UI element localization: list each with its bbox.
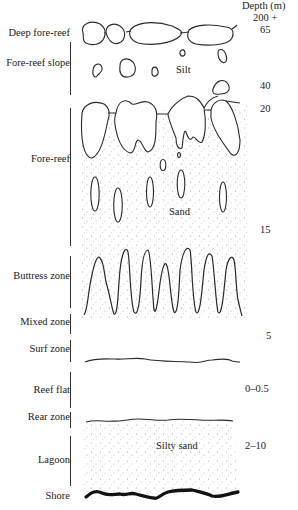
pillar: [160, 160, 166, 171]
pillar: [114, 188, 123, 222]
depth-value: 15: [260, 224, 271, 236]
sediment-label: Silt: [176, 64, 191, 76]
depth-value: 5: [266, 330, 271, 342]
zone-label-mixed-zone: Mixed zone: [20, 316, 70, 328]
depth-value: 200 +: [253, 12, 277, 24]
slope-boulder: [180, 50, 185, 56]
sediment-label: Silty sand: [156, 440, 198, 452]
slope-boulder: [93, 64, 102, 77]
zone-extent-bar-lagoon: [70, 436, 71, 486]
pillar: [177, 170, 185, 198]
deep-reef-boulder: [188, 25, 233, 45]
depth-value: 0–0.5: [245, 383, 269, 395]
zone-extent-bar-surf-zone: [70, 340, 71, 362]
zone-label-deep-fore-reef: Deep fore-reef: [9, 27, 71, 39]
zone-extent-bar-fore-reef-slope: [70, 42, 71, 95]
reef-profile-drawing: [0, 0, 298, 510]
pillar: [147, 177, 154, 207]
spur-head: [115, 101, 157, 153]
deep-reef-boulder: [83, 22, 106, 44]
zone-label-reef-flat: Reef flat: [34, 384, 70, 396]
slope-boulder: [218, 49, 227, 62]
deep-reef-boulder: [106, 24, 125, 43]
zone-label-fore-reef: Fore-reef: [31, 153, 70, 165]
slope-boulder: [152, 67, 158, 76]
deep-reef-boulder: [130, 23, 182, 45]
depth-value: 2–10: [245, 440, 266, 452]
silty-sand-stipple-area: [84, 420, 238, 497]
pillar: [91, 177, 99, 211]
zone-label-fore-reef-slope: Fore-reef slope: [6, 57, 70, 69]
zone-label-buttress-zone: Buttress zone: [13, 270, 70, 282]
zone-extent-bar-reef-flat: [70, 372, 71, 408]
pillar: [220, 182, 227, 212]
surf-zone-line: [85, 358, 240, 362]
depth-value: 20: [260, 103, 271, 115]
depth-value: 40: [260, 80, 271, 92]
slope-boulder: [213, 81, 230, 95]
depth-title: Depth (m): [242, 0, 285, 12]
zone-extent-bar-rear-zone: [70, 412, 71, 428]
pillar: [178, 153, 181, 158]
zone-extent-bar-mixed-zone: [70, 314, 71, 334]
zone-label-shore: Shore: [46, 490, 71, 502]
zone-extent-bar-buttress-zone: [70, 256, 71, 308]
zone-label-surf-zone: Surf zone: [29, 343, 70, 355]
depth-value: 65: [260, 24, 271, 36]
sediment-label: Sand: [169, 206, 190, 218]
zone-extent-bar-fore-reef: [70, 108, 71, 246]
zone-label-rear-zone: Rear zone: [28, 411, 70, 423]
slope-boulder: [120, 59, 136, 77]
zone-label-lagoon: Lagoon: [38, 454, 70, 466]
